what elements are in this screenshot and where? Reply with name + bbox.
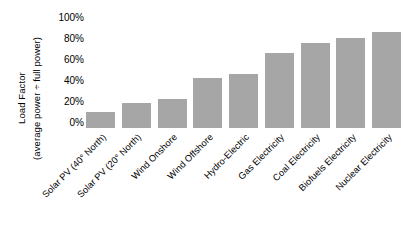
bar	[229, 74, 258, 128]
bar	[193, 78, 222, 128]
plot-area	[86, 18, 401, 128]
bar	[158, 99, 187, 128]
bar-chart: Load Factor (average power ÷ full power)…	[0, 0, 406, 234]
y-axis-title-line1: Load Factor	[16, 72, 27, 124]
bar	[122, 103, 151, 128]
y-axis-tick-label: 0%	[44, 118, 84, 128]
x-axis-tick-labels: Solar PV (40° North) Solar PV (20° North…	[86, 130, 401, 234]
y-axis-tick-label: 100%	[44, 13, 84, 23]
bar	[265, 53, 294, 128]
y-axis-tick-label: 80%	[44, 34, 84, 44]
y-axis-tick-label: 20%	[44, 97, 84, 107]
bar	[372, 32, 401, 128]
bar-series	[86, 23, 401, 128]
y-axis-title-line2: (average power ÷ full power)	[31, 37, 42, 160]
y-axis-tick-label: 60%	[44, 55, 84, 65]
bar	[86, 112, 115, 128]
y-axis-title: Load Factor (average power ÷ full power)	[0, 0, 46, 150]
y-axis-tick-labels: 100% 80% 60% 40% 20% 0%	[42, 0, 84, 140]
y-axis-tick-label: 40%	[44, 76, 84, 86]
bar	[301, 43, 330, 128]
bar	[336, 38, 365, 128]
